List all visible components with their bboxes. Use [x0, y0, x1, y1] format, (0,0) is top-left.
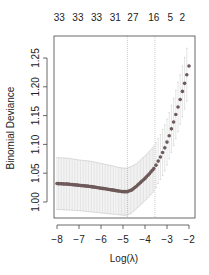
- x-axis-title: Log(λ): [110, 253, 138, 264]
- x-tick-label: −7: [73, 234, 85, 245]
- data-point: [174, 113, 178, 117]
- data-point: [170, 127, 174, 131]
- data-point: [178, 98, 182, 102]
- data-point: [159, 155, 163, 159]
- top-count-label: 5: [168, 12, 174, 23]
- top-count-label: 31: [110, 12, 122, 23]
- top-count-label: 33: [91, 12, 103, 23]
- data-point: [156, 159, 160, 163]
- data-point: [154, 163, 158, 167]
- data-point: [163, 146, 167, 150]
- top-count-label: 33: [54, 12, 66, 23]
- top-count-label: 27: [127, 12, 139, 23]
- top-count-label: 33: [72, 12, 84, 23]
- data-point: [183, 82, 187, 86]
- data-point: [165, 140, 169, 144]
- y-tick-label: 1.05: [30, 163, 41, 183]
- y-tick-label: 1.00: [30, 192, 41, 212]
- data-point: [152, 167, 156, 171]
- top-count-label: 16: [148, 12, 160, 23]
- cv-deviance-chart: −8−7−6−5−4−3−2 1.001.051.101.151.201.25 …: [0, 0, 209, 275]
- y-tick-label: 1.15: [30, 105, 41, 125]
- data-point: [167, 134, 171, 138]
- x-tick-label: −4: [139, 234, 151, 245]
- data-point: [185, 73, 189, 77]
- x-tick-label: −2: [183, 234, 195, 245]
- y-axis-title: Binomial Deviance: [5, 86, 16, 169]
- x-tick-label: −6: [95, 234, 107, 245]
- x-tick-label: −3: [161, 234, 173, 245]
- y-tick-label: 1.10: [30, 134, 41, 154]
- data-point: [181, 90, 185, 94]
- top-axis-nonzero-counts: 33333331271652: [54, 12, 186, 23]
- data-point: [176, 105, 180, 109]
- top-count-label: 2: [180, 12, 186, 23]
- y-axis: 1.001.051.101.151.201.25: [30, 48, 47, 212]
- x-tick-label: −8: [51, 234, 63, 245]
- y-tick-label: 1.20: [30, 77, 41, 97]
- x-tick-label: −5: [117, 234, 129, 245]
- data-point: [172, 120, 176, 124]
- y-tick-label: 1.25: [30, 48, 41, 68]
- data-point: [161, 151, 165, 155]
- x-axis: −8−7−6−5−4−3−2: [51, 225, 195, 245]
